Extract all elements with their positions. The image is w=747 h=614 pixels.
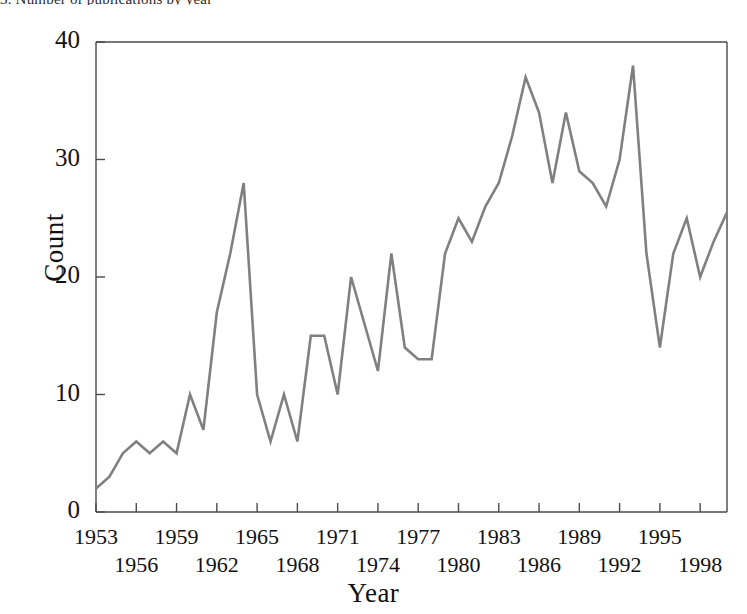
y-axis-label: Count [39, 188, 70, 308]
x-tick-label: 1968 [257, 552, 337, 578]
y-tick-label: 10 [20, 379, 80, 407]
figure-container: 3. Number of publications by year Count … [0, 0, 747, 614]
x-tick-label: 1956 [96, 552, 176, 578]
x-tick-label: 1992 [580, 552, 660, 578]
x-tick-label: 1998 [660, 552, 740, 578]
x-tick-label: 1953 [56, 524, 136, 550]
x-tick-label: 1980 [418, 552, 498, 578]
x-tick-label: 1965 [217, 524, 297, 550]
line-chart-plot [0, 0, 747, 614]
x-tick-label: 1995 [620, 524, 700, 550]
x-tick-label: 1971 [298, 524, 378, 550]
x-axis-ticks [96, 503, 700, 512]
x-tick-label: 1962 [177, 552, 257, 578]
x-tick-label: 1983 [459, 524, 539, 550]
x-tick-label: 1989 [539, 524, 619, 550]
plot-frame [96, 42, 727, 512]
y-tick-label: 30 [20, 144, 80, 172]
y-tick-label: 0 [20, 496, 80, 524]
y-axis-ticks [96, 42, 105, 512]
x-tick-label: 1977 [378, 524, 458, 550]
data-series-line [96, 66, 727, 489]
x-tick-label: 1974 [338, 552, 418, 578]
x-tick-label: 1986 [499, 552, 579, 578]
x-axis-label: Year [0, 578, 747, 609]
y-tick-label: 20 [20, 261, 80, 289]
x-tick-label: 1959 [137, 524, 217, 550]
y-tick-label: 40 [20, 26, 80, 54]
